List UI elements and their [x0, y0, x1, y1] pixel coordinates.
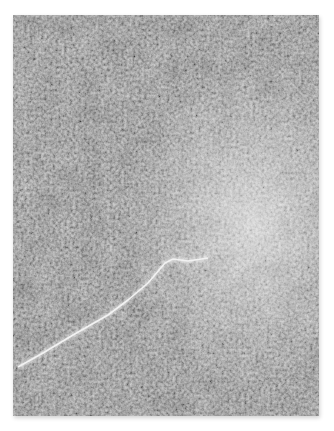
texture-image — [13, 15, 319, 416]
grayscale-photo: Grayscale microscopy-style texture photo… — [13, 15, 319, 416]
bright-glow — [13, 15, 319, 416]
